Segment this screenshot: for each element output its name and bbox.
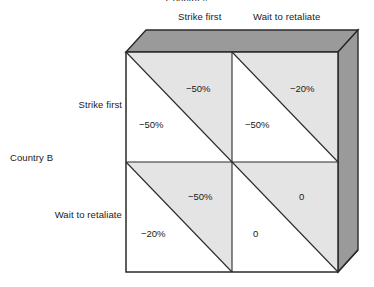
payoff-r1c1-lower: 0 [253,228,258,239]
column-header-strike-first: Strike first [178,11,221,22]
payoff-r0c0-upper: −50% [186,83,211,94]
column-axis-title: Country A [0,0,374,1]
payoff-matrix-figure: Country A Strike first Wait to retaliate… [0,0,374,287]
row-header-strike-first: Strike first [79,99,122,110]
payoff-r1c0-lower: −20% [141,228,166,239]
row-header-wait-to-retaliate: Wait to retaliate [55,209,122,220]
row-axis-title: Country B [10,152,53,163]
box-right-face [338,30,358,272]
payoff-r0c1-upper: −20% [290,83,315,94]
payoff-r1c1-upper: 0 [299,191,304,202]
payoff-r0c0-lower: −50% [139,119,164,130]
box-top-face [126,30,358,52]
payoff-r1c0-upper: −50% [188,191,213,202]
column-header-wait-to-retaliate: Wait to retaliate [253,11,320,22]
payoff-r0c1-lower: −50% [245,119,270,130]
payoff-matrix-svg [0,0,374,287]
